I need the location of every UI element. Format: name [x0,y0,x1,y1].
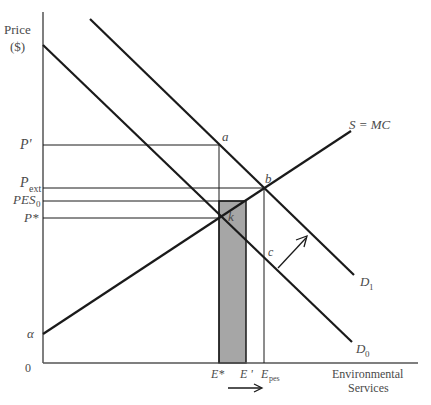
point-k-label: k [228,209,234,224]
shaded-area [219,201,246,363]
p-ext-label: P [19,175,29,190]
supply-curve-mc [43,131,351,334]
x-axis-label-line2: Services [348,381,389,395]
x-axis-label: Environmental [332,367,404,381]
e-pes-label: E [260,367,269,381]
p-prime-label: P' [19,137,33,152]
y-axis-unit: ($) [10,39,25,54]
pes0-label: PES [12,192,36,207]
point-a-label: a [222,129,229,144]
p-star-label: P* [23,210,39,225]
e-prime-label: E ' [239,367,253,381]
origin-label: 0 [25,361,31,375]
demand-curve-d0 [43,45,352,342]
d0-subscript: 0 [365,349,370,359]
alpha-label: α [27,326,35,341]
e-pes-subscript: pes [269,374,280,383]
e-star-label: E* [210,367,224,381]
quantity-shift-arrow [228,384,262,392]
d1-subscript: 1 [369,282,374,292]
point-c-label: c [268,245,274,259]
supply-curve-label: S = MC [349,117,391,132]
y-axis-label: Price [4,22,31,37]
demand-shift-arrow [278,236,307,268]
externality-diagram: Price ($) P' P ext PES 0 P* α 0 E* E ' E… [0,0,431,405]
pes0-subscript: 0 [36,199,41,209]
point-b-label: b [265,171,272,186]
